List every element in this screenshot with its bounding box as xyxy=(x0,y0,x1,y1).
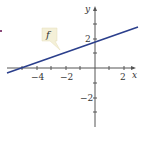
x-tick-label-2: 2 xyxy=(120,72,126,82)
y-axis-label: y xyxy=(84,4,91,14)
y-tick-label-2: 2 xyxy=(85,34,91,44)
linear-function-chart: f −4 −2 2 x 2 −2 y xyxy=(0,0,141,141)
function-line-f xyxy=(7,27,138,73)
chart-svg: f −4 −2 2 x 2 −2 y xyxy=(0,0,141,141)
function-callout: f xyxy=(42,28,60,50)
x-axis-label: x xyxy=(132,70,137,80)
x-tick-label-neg4: −4 xyxy=(31,72,45,82)
edge-mark xyxy=(0,30,2,32)
x-tick-label-neg2: −2 xyxy=(60,72,73,82)
y-tick-label-neg2: −2 xyxy=(80,93,93,103)
y-axis xyxy=(93,6,97,127)
